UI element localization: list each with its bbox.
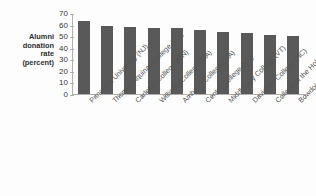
y-tick-label: 70 bbox=[59, 9, 68, 18]
y-tick-label: 20 bbox=[59, 67, 68, 76]
y-tick-mark bbox=[70, 95, 74, 96]
y-tick-mark bbox=[70, 37, 74, 38]
y-axis-title-line-4: (percent) bbox=[4, 59, 54, 68]
y-tick-label: 30 bbox=[59, 55, 68, 64]
y-tick-label: 50 bbox=[59, 32, 68, 41]
y-tick-label: 0 bbox=[64, 90, 68, 99]
y-axis-title: Alumni donation rate (percent) bbox=[4, 33, 54, 67]
y-tick-label: 10 bbox=[59, 78, 68, 87]
y-tick-mark bbox=[70, 14, 74, 15]
y-tick-label: 60 bbox=[59, 21, 68, 30]
y-tick-mark bbox=[70, 49, 74, 50]
y-tick-label: 40 bbox=[59, 44, 68, 53]
y-tick-mark bbox=[70, 60, 74, 61]
y-tick-mark bbox=[70, 83, 74, 84]
bar-chart: Alumni donation rate (percent) 706050403… bbox=[0, 0, 316, 196]
y-tick-mark bbox=[70, 72, 74, 73]
y-tick-mark bbox=[70, 26, 74, 27]
bar bbox=[78, 21, 90, 94]
